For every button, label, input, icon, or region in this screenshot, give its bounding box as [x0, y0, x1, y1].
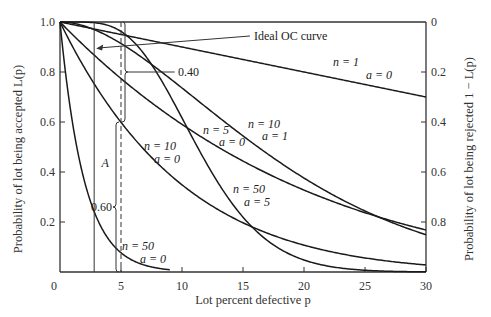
- right-y-tick-label: 0.8: [431, 215, 446, 229]
- curve-label-a: a = 0: [154, 152, 180, 166]
- lower-bracket-label: 0.60: [91, 200, 112, 214]
- curve-labels: n = 1a = 0n = 5a = 0n = 10a = 0n = 10a =…: [122, 55, 392, 266]
- curve-label-a: a = 0: [219, 135, 245, 149]
- ideal-oc-label: Ideal OC curve: [254, 29, 327, 43]
- curve-label-n: n = 10: [144, 139, 176, 153]
- x-tick-label: 20: [298, 279, 310, 293]
- curve-label-a: a = 5: [244, 195, 270, 209]
- x-tick-label: 5: [118, 279, 124, 293]
- x-axis-title: Lot percent defective p: [195, 293, 311, 307]
- region-a-label: A: [100, 156, 109, 170]
- annotations: 0.400.60AIdeal OC curve: [91, 22, 327, 272]
- oc-curve-chart: 0510152025300.20.40.60.81.000.20.40.60.8…: [0, 0, 491, 317]
- right-y-tick-label: 0.4: [431, 115, 446, 129]
- oc-curve-n-10-a-1: [60, 22, 426, 235]
- y-tick-label: 0.8: [40, 65, 55, 79]
- x-tick-label: 15: [237, 279, 249, 293]
- upper-bracket-label: 0.40: [178, 65, 199, 79]
- y-tick-label: 0.6: [40, 115, 55, 129]
- x-tick-label: 10: [176, 279, 188, 293]
- oc-curve-n-1-a-0: [60, 22, 426, 97]
- curve-label-n: n = 50: [233, 182, 265, 196]
- x-tick-label: 25: [359, 279, 371, 293]
- curve-label-a: a = 0: [140, 252, 166, 266]
- right-y-tick-label: 0.2: [431, 65, 446, 79]
- upper-bracket: [122, 22, 128, 122]
- y-axis-title: Probability of lot being accepted L(p): [11, 65, 25, 253]
- y-tick-label: 0.2: [40, 215, 55, 229]
- right-y-tick-label: 0: [431, 15, 437, 29]
- curve-label-n: n = 50: [122, 239, 154, 253]
- arrowhead-icon: [96, 45, 103, 51]
- curve-label-n: n = 1: [333, 55, 359, 69]
- curve-label-a: a = 1: [262, 129, 288, 143]
- right-y-tick-label: 0.6: [431, 165, 446, 179]
- x-tick-label: 0: [51, 279, 57, 293]
- y-axis-right-title: Probability of lot being rejected 1 − L(…: [462, 57, 476, 261]
- curve-label-a: a = 0: [366, 68, 392, 82]
- y-tick-label: 1.0: [40, 15, 55, 29]
- x-tick-label: 30: [420, 279, 432, 293]
- y-tick-label: 0.4: [40, 165, 55, 179]
- oc-curve-n-5-a-0: [60, 22, 426, 230]
